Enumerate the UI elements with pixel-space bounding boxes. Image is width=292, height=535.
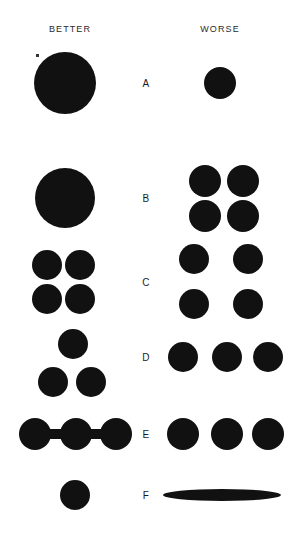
row-label-e: E	[131, 429, 161, 440]
dot-worse-b-3	[227, 200, 259, 232]
dot-better-d-0	[58, 329, 88, 359]
dot-worse-d-0	[168, 342, 198, 372]
row-label-c: C	[131, 277, 161, 288]
dot-worse-c-3	[233, 289, 263, 319]
row-label-f: F	[131, 490, 161, 501]
dot-worse-b-0	[189, 165, 221, 197]
dot-better-d-1	[38, 367, 68, 397]
scan-artifact-0	[36, 54, 39, 57]
dot-better-b-0	[35, 168, 95, 228]
dot-better-d-2	[76, 367, 106, 397]
dot-better-f-0	[60, 480, 90, 510]
row-label-d: D	[131, 352, 161, 363]
dot-worse-d-2	[253, 342, 283, 372]
dot-worse-a-0	[204, 67, 236, 99]
dot-worse-b-1	[227, 165, 259, 197]
dot-better-c-3	[65, 284, 95, 314]
row-label-a: A	[131, 78, 161, 89]
flattened-ellipse-worse-f	[163, 489, 281, 501]
dot-worse-c-1	[233, 244, 263, 274]
dot-worse-d-1	[212, 342, 242, 372]
better-worse-dot-diagram: BETTER WORSE A B C D E F	[0, 0, 292, 535]
dot-better-c-2	[32, 284, 62, 314]
dot-worse-e-2	[252, 418, 284, 450]
column-header-worse: WORSE	[170, 24, 270, 34]
connector-bar-better-e	[35, 429, 117, 439]
dot-worse-c-2	[179, 289, 209, 319]
dot-better-a-0	[34, 52, 96, 114]
dot-worse-c-0	[179, 244, 209, 274]
dot-better-c-0	[32, 250, 62, 280]
dot-worse-e-0	[167, 418, 199, 450]
dot-better-c-1	[65, 250, 95, 280]
row-label-b: B	[131, 193, 161, 204]
dot-worse-b-2	[189, 200, 221, 232]
dot-worse-e-1	[211, 418, 243, 450]
column-header-better: BETTER	[20, 24, 120, 34]
